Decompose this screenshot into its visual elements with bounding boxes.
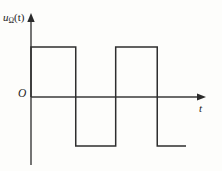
y-axis-label: uΩ(t)	[3, 12, 24, 25]
y-axis-label-arg: (t)	[14, 11, 24, 23]
waveform-figure: uΩ(t) O t	[0, 0, 222, 171]
y-axis-arrow-icon	[27, 13, 34, 22]
x-axis-label: t	[199, 103, 202, 114]
x-axis-arrow-icon	[197, 93, 206, 100]
waveform-plot	[0, 0, 222, 171]
origin-label: O	[18, 88, 26, 100]
